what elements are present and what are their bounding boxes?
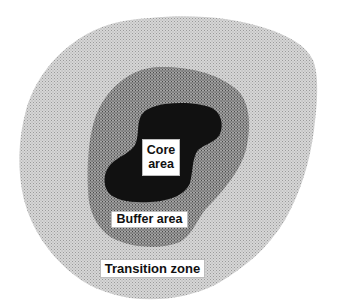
core-area-label: Core area	[142, 139, 180, 176]
buffer-area-label: Buffer area	[111, 211, 188, 228]
core-area-label-line1: Core	[143, 144, 179, 158]
transition-zone-label: Transition zone	[100, 259, 205, 278]
core-area-label-line2: area	[143, 158, 179, 172]
